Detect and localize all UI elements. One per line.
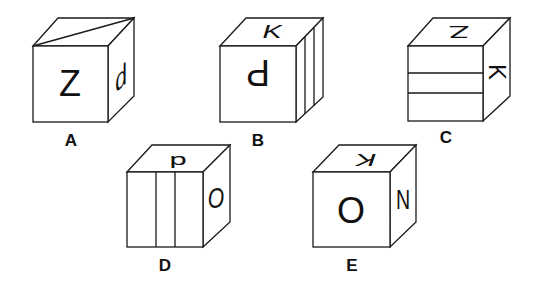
cube-b-label: B [252,131,264,150]
cube-d-label: D [159,256,171,275]
cube-b: K P B [220,18,323,150]
cube-b-top-letter: K [262,22,282,42]
cube-c-top-letter: Z [449,23,470,42]
cube-e-front-letter: O [337,190,365,231]
cube-c: Z K C [408,18,511,147]
cube-d-right-letter: O [208,181,224,213]
cube-d: d O D [127,145,230,275]
cube-b-front-letter: P [246,52,270,93]
cube-c-label: C [440,128,452,147]
cube-puzzle-figure: Z d A K P B Z K C d O D [0,0,541,284]
cube-e: K O N E [313,145,416,275]
cube-e-right-letter: N [396,184,410,215]
cube-a-label: A [65,131,77,150]
cube-e-top-letter: K [354,151,376,170]
cube-a: Z d A [33,18,134,150]
cube-a-front-letter: Z [59,63,81,104]
cube-d-top-letter: d [169,152,186,171]
cube-c-right-letter: K [484,64,511,80]
cube-d-front-face [127,172,203,247]
cube-c-front-face [408,46,483,121]
cube-e-label: E [346,256,357,275]
